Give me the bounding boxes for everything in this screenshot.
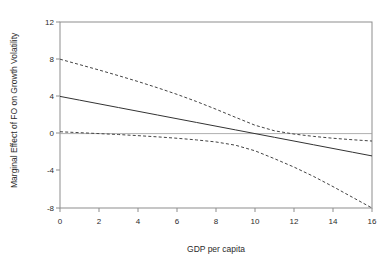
marginal-effect-chart: Marginal Effect of FO on Growth Volatili… (0, 0, 391, 274)
x-tick-label: 12 (290, 217, 299, 226)
x-tick-label: 4 (136, 217, 141, 226)
x-tick-label: 2 (97, 217, 102, 226)
x-tick-label: 8 (214, 217, 219, 226)
x-axis-label: GDP per capita (187, 244, 245, 254)
y-tick-label: 12 (45, 18, 54, 27)
figure-background (0, 0, 391, 274)
x-tick-label: 16 (368, 217, 377, 226)
y-tick-label: 4 (50, 92, 55, 101)
x-tick-label: 0 (58, 217, 63, 226)
y-tick-label: 0 (50, 129, 55, 138)
x-tick-label: 14 (329, 217, 338, 226)
x-tick-label: 6 (175, 217, 180, 226)
y-tick-label: 8 (50, 55, 55, 64)
y-tick-label: -8 (47, 204, 55, 213)
x-tick-label: 10 (251, 217, 260, 226)
y-tick-label: -4 (47, 166, 55, 175)
y-axis-label: Marginal Effect of FO on Growth Volatili… (9, 32, 19, 188)
